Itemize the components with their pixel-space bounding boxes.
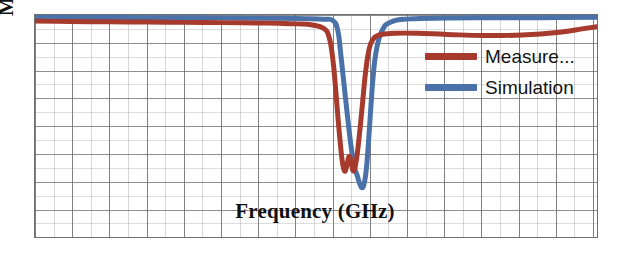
y-axis-title: Magnitude (dB) <box>0 0 19 36</box>
legend-label-simulation: Simulation <box>485 78 574 97</box>
legend-swatch-simulation <box>425 84 477 91</box>
plot-area: Frequency (GHz) Measure... Simulation <box>34 14 598 238</box>
return-loss-chart: Frequency (GHz) Measure... Simulation Ma… <box>0 0 617 256</box>
legend-item-measured: Measure... <box>425 47 575 66</box>
series-line-simulation <box>35 17 597 188</box>
x-axis-title: Frequency (GHz) <box>185 199 445 224</box>
chart-legend: Measure... Simulation <box>423 45 577 99</box>
legend-label-measured: Measure... <box>485 47 575 66</box>
legend-item-simulation: Simulation <box>425 78 575 97</box>
legend-swatch-measured <box>425 53 477 60</box>
